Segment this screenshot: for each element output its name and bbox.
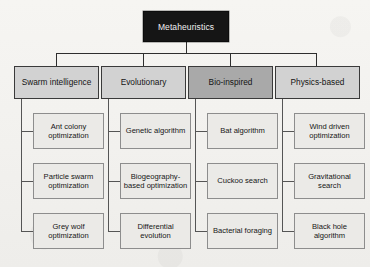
leaf-node-label: Biogeography-based optimization xyxy=(121,172,190,190)
leaf-elbow-connector-1-3 xyxy=(21,231,33,232)
leaf-node-wind-driven-optimization: Wind driven optimization xyxy=(294,113,365,149)
root-node-metaheuristics: Metaheuristics xyxy=(143,11,229,42)
leaf-node-label: Particle swarm optimization xyxy=(34,172,103,190)
leaf-node-black-hole-algorithm: Black hole algorithm xyxy=(294,213,365,249)
leaf-elbow-connector-3-3 xyxy=(195,231,207,232)
category-stem-connector-2 xyxy=(143,53,144,66)
leaf-node-grey-wolf-optimization: Grey wolf optimization xyxy=(33,213,104,249)
leaf-node-label: Cuckoo search xyxy=(215,176,270,185)
leaf-spine-connector-1 xyxy=(21,99,22,231)
leaf-node-differential-evolution: Differential evolution xyxy=(120,213,191,249)
leaf-node-label: Genetic algorithm xyxy=(124,126,188,135)
leaf-node-cuckoo-search: Cuckoo search xyxy=(207,163,278,199)
leaf-node-label: Differential evolution xyxy=(121,222,190,240)
category-bus-connector xyxy=(56,53,317,54)
category-stem-connector-3 xyxy=(230,53,231,66)
category-stem-connector-4 xyxy=(316,53,317,66)
leaf-elbow-connector-1-2 xyxy=(21,181,33,182)
metaheuristics-taxonomy-diagram: Metaheuristics Swarm intelligence Evolut… xyxy=(0,0,370,267)
leaf-elbow-connector-4-2 xyxy=(282,181,294,182)
leaf-node-genetic-algorithm: Genetic algorithm xyxy=(120,113,191,149)
leaf-node-particle-swarm-optimization: Particle swarm optimization xyxy=(33,163,104,199)
leaf-elbow-connector-2-2 xyxy=(108,181,120,182)
leaf-elbow-connector-1-1 xyxy=(21,131,33,132)
leaf-node-label: Grey wolf optimization xyxy=(34,222,103,240)
leaf-node-label: Bacterial foraging xyxy=(211,226,274,235)
root-stem-connector xyxy=(186,42,187,53)
root-node-label: Metaheuristics xyxy=(156,22,216,32)
category-node-physics-based: Physics-based xyxy=(275,66,360,99)
leaf-node-label: Black hole algorithm xyxy=(295,222,364,240)
leaf-elbow-connector-4-1 xyxy=(282,131,294,132)
leaf-spine-connector-3 xyxy=(195,99,196,231)
leaf-node-bat-algorithm: Bat algorithm xyxy=(207,113,278,149)
leaf-node-ant-colony-optimization: Ant colony optimization xyxy=(33,113,104,149)
category-node-bio-inspired: Bio-inspired xyxy=(188,66,273,99)
leaf-node-label: Bat algorithm xyxy=(218,126,267,135)
leaf-elbow-connector-2-1 xyxy=(108,131,120,132)
leaf-node-biogeography-based-optimization: Biogeography-based optimization xyxy=(120,163,191,199)
leaf-node-label: Ant colony optimization xyxy=(34,122,103,140)
leaf-node-label: Gravitational search xyxy=(295,172,364,190)
leaf-elbow-connector-4-3 xyxy=(282,231,294,232)
category-node-label: Swarm intelligence xyxy=(20,77,94,88)
leaf-spine-connector-2 xyxy=(108,99,109,231)
category-node-label: Evolutionary xyxy=(119,77,169,88)
leaf-node-bacterial-foraging: Bacterial foraging xyxy=(207,213,278,249)
leaf-node-label: Wind driven optimization xyxy=(295,122,364,140)
leaf-spine-connector-4 xyxy=(282,99,283,231)
category-stem-connector-1 xyxy=(56,53,57,66)
leaf-elbow-connector-3-1 xyxy=(195,131,207,132)
category-node-label: Physics-based xyxy=(289,77,347,88)
leaf-elbow-connector-2-3 xyxy=(108,231,120,232)
leaf-elbow-connector-3-2 xyxy=(195,181,207,182)
leaf-node-gravitational-search: Gravitational search xyxy=(294,163,365,199)
category-node-evolutionary: Evolutionary xyxy=(101,66,186,99)
category-node-swarm-intelligence: Swarm intelligence xyxy=(14,66,99,99)
category-node-label: Bio-inspired xyxy=(207,77,255,88)
